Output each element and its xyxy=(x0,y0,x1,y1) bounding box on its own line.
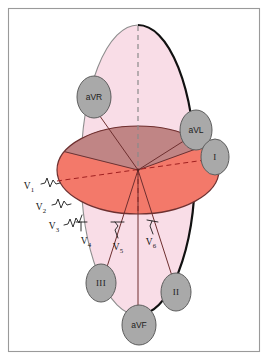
lead-label-V2: V2 xyxy=(36,202,47,213)
lead-label-I: I xyxy=(213,152,216,162)
ecg-lead-vector-diagram: aVR aVL I II III aVF xyxy=(0,0,268,360)
lead-label-III: III xyxy=(96,278,106,288)
lead-label-aVF: aVF xyxy=(131,320,147,330)
lead-marker-aVR[interactable]: aVR xyxy=(77,76,111,118)
figure-root: aVR aVL I II III aVF xyxy=(0,0,268,360)
lead-label-aVR: aVR xyxy=(86,92,103,102)
v2-leader xyxy=(52,199,71,208)
v3-leader xyxy=(64,215,82,227)
lead-label-V3: V3 xyxy=(49,221,60,232)
electrical-center-point xyxy=(137,169,140,172)
lead-marker-III[interactable]: III xyxy=(86,264,116,302)
lead-marker-I[interactable]: I xyxy=(201,139,229,175)
lead-label-aVL: aVL xyxy=(188,125,203,135)
lead-marker-II[interactable]: II xyxy=(161,273,191,311)
lead-label-II: II xyxy=(173,287,180,297)
v1-leader xyxy=(41,178,60,187)
lead-label-V1: V1 xyxy=(24,181,34,192)
lead-marker-aVF[interactable]: aVF xyxy=(122,305,156,345)
